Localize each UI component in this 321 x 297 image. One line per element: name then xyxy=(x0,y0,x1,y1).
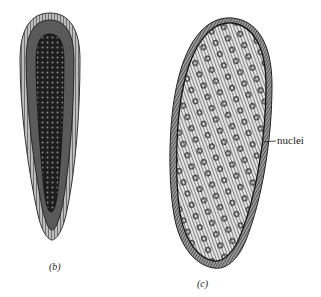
ciliate-figure: (b) (c) nuclei xyxy=(0,0,321,297)
organism-b xyxy=(20,13,80,240)
nuclei-annotation: nuclei xyxy=(277,134,304,146)
organism-c xyxy=(170,18,272,268)
panel-label-c: (c) xyxy=(197,278,208,289)
panel-label-b: (b) xyxy=(49,261,61,272)
illustration xyxy=(0,0,321,297)
